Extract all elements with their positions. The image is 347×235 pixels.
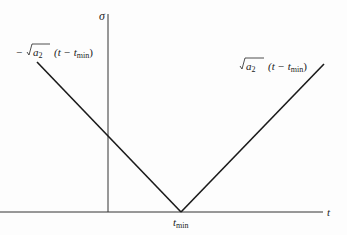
svg-text:a2: a2 bbox=[33, 46, 43, 60]
tmin-label: tmin bbox=[173, 216, 189, 230]
svg-text:−: − bbox=[16, 46, 22, 58]
svg-text:(t − tmin): (t − tmin) bbox=[268, 60, 307, 74]
svg-text:(t − tmin): (t − tmin) bbox=[54, 46, 93, 60]
right-line-label: a2 (t − tmin) bbox=[240, 58, 307, 74]
left-descending-line bbox=[37, 62, 181, 212]
diagram-canvas: σ t tmin − a2 (t − tmin) a2 (t − tmin) bbox=[0, 0, 347, 235]
x-axis-label: t bbox=[327, 206, 331, 218]
left-line-label: − a2 (t − tmin) bbox=[16, 44, 93, 60]
v-shaped-sigma-diagram: σ t tmin − a2 (t − tmin) a2 (t − tmin) bbox=[0, 0, 347, 235]
right-ascending-line bbox=[181, 64, 324, 212]
y-axis-label: σ bbox=[99, 9, 106, 23]
svg-text:a2: a2 bbox=[246, 60, 256, 74]
